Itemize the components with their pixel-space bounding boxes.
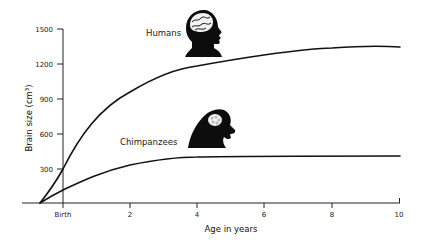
y-tick-label: 300 xyxy=(40,166,53,174)
x-tick-label: Birth xyxy=(55,211,72,219)
y-tick-label: 1500 xyxy=(35,26,53,34)
y-tick-label: 600 xyxy=(40,131,53,139)
human-head-with-brain-icon xyxy=(185,10,222,57)
brain-growth-chart: 1500 1200 900 600 300 Brain size (cm³) B… xyxy=(0,0,422,248)
y-tick-label: 1200 xyxy=(35,61,53,69)
x-tick-label: 8 xyxy=(330,211,334,219)
humans-label: Humans xyxy=(146,28,182,38)
x-tick-label: 6 xyxy=(262,211,267,219)
chimpanzees-growth-curve xyxy=(40,156,400,203)
x-tick-label: 4 xyxy=(195,211,200,219)
chimpanzee-head-with-brain-icon xyxy=(188,109,235,148)
chimpanzees-label: Chimpanzees xyxy=(120,137,178,147)
x-tick-label: 10 xyxy=(395,211,404,219)
x-axis: Birth 2 4 6 8 10 Age in years xyxy=(22,198,403,234)
x-axis-title: Age in years xyxy=(205,224,259,234)
y-tick-label: 900 xyxy=(40,96,53,104)
y-axis: 1500 1200 900 600 300 Brain size (cm³) xyxy=(24,26,63,204)
y-axis-title: Brain size (cm³) xyxy=(24,84,34,151)
x-tick-label: 2 xyxy=(128,211,132,219)
